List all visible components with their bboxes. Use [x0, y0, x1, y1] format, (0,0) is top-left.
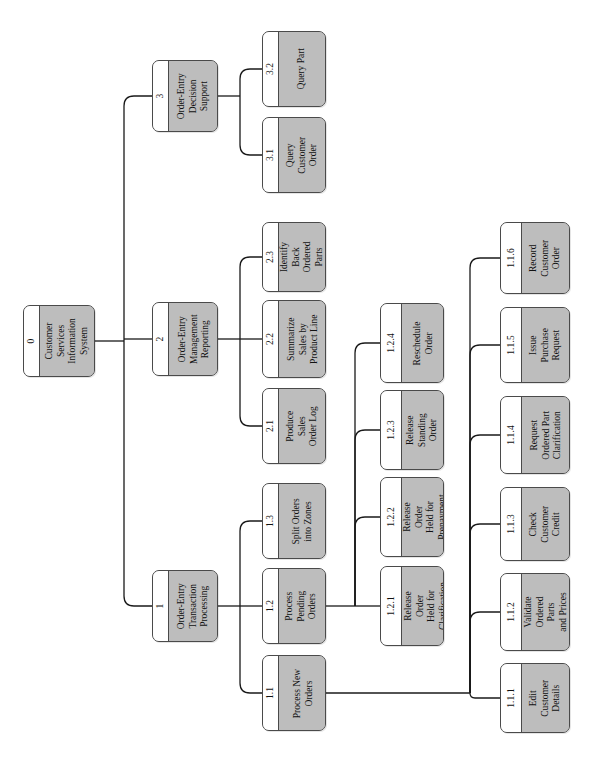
process-node-1-2-2[interactable]: 1.2.2 ReleaseOrderHeld forPrepayment: [380, 477, 444, 557]
edge-3-to-3.1: [240, 96, 262, 155]
node-id: 1.2.3: [386, 420, 396, 440]
node-id: 1.2.1: [386, 596, 396, 616]
node-name-box: ReleaseStandingOrder: [402, 391, 444, 469]
node-name-box: CustomerServicesInformationSystem: [40, 306, 94, 376]
node-label: Order-EntryTransactionProcessing: [176, 583, 211, 629]
node-id: 1.3: [266, 515, 276, 527]
node-label: RecordCustomerOrder: [528, 240, 563, 277]
node-name-box: ProcessPendingOrders: [279, 569, 325, 643]
edge-1.2-to-1.2.4: [355, 343, 380, 606]
node-id: 1.2.4: [386, 333, 396, 353]
node-id-strip: 1.1.2: [501, 574, 522, 650]
node-label: ProduceSalesOrder Log: [285, 406, 320, 446]
node-id-strip: 1.2.4: [381, 304, 402, 382]
node-id: 2: [155, 337, 165, 342]
node-id-strip: 2: [153, 303, 169, 375]
node-id-strip: 1.1.6: [501, 223, 522, 293]
node-id: 1.2: [266, 600, 276, 612]
node-id-strip: 1: [153, 571, 169, 641]
edge-1.1-to-1.1.6: [470, 258, 500, 693]
node-id: 3.2: [266, 63, 276, 75]
process-node-3[interactable]: 3 Order-EntryDecisionSupport: [152, 60, 218, 132]
node-label: Process NewOrders: [292, 668, 315, 717]
edge-1.1-to-1.1.5: [470, 345, 500, 693]
node-name-box: Order-EntryDecisionSupport: [169, 61, 217, 131]
node-name-box: Order-EntryManagementReporting: [169, 303, 218, 375]
process-node-1-2-1[interactable]: 1.2.1 ReleaseOrderHeld forClarification: [380, 566, 444, 646]
process-node-2-2[interactable]: 2.2 SummarizeSales byProduct Line: [262, 300, 326, 378]
edge-1-to-1.1: [240, 606, 262, 693]
node-name-box: IdentifyBackOrderedParts: [279, 223, 325, 291]
node-id: 2.3: [266, 251, 276, 263]
edge-1.2-to-1.2.3: [355, 430, 380, 606]
node-label: Query Part: [296, 48, 308, 89]
node-id-strip: 2.1: [263, 389, 279, 463]
node-label: CheckCustomerCredit: [528, 506, 563, 543]
node-label: IssuePurchaseRequest: [528, 328, 563, 362]
node-id: 3: [155, 94, 165, 99]
node-id-strip: 1.3: [263, 484, 279, 558]
edge-1.1-to-1.1.3: [470, 524, 500, 693]
process-node-2-1[interactable]: 2.1 ProduceSalesOrder Log: [262, 388, 326, 464]
node-id: 1: [155, 604, 165, 609]
node-id-strip: 1.1.1: [501, 664, 522, 732]
edge-2-to-2.3: [240, 257, 262, 339]
node-id-strip: 1.2.3: [381, 391, 402, 469]
node-name-box: ReleaseOrderHeld forClarification: [402, 567, 445, 645]
node-label: RescheduleOrder: [412, 321, 435, 365]
node-id-strip: 2.2: [263, 301, 279, 377]
node-id: 1.1.1: [506, 688, 516, 708]
process-node-1-1-1[interactable]: 1.1.1 EditCustomerDetails: [500, 663, 570, 733]
node-name-box: Query Part: [279, 32, 325, 106]
node-id: 1.1: [266, 687, 276, 699]
node-id-strip: 1.2: [263, 569, 279, 643]
process-node-1-1-4[interactable]: 1.1.4 RequestOrdered PartClarification: [500, 396, 570, 474]
node-id-strip: 3.1: [263, 118, 279, 192]
process-node-3-2[interactable]: 3.2 Query Part: [262, 31, 326, 107]
edge-0-to-1: [124, 341, 152, 606]
node-id: 2.2: [266, 333, 276, 345]
node-name-box: ValidateOrderedPartsand Prices: [522, 574, 570, 650]
node-name-box: Order-EntryTransactionProcessing: [169, 571, 217, 641]
edge-0-to-3: [124, 96, 152, 341]
process-node-0[interactable]: 0 CustomerServicesInformationSystem: [23, 305, 95, 377]
process-node-1[interactable]: 1 Order-EntryTransactionProcessing: [152, 570, 218, 642]
edge-1.1-to-1.1.4: [470, 435, 500, 693]
process-node-1-1-6[interactable]: 1.1.6 RecordCustomerOrder: [500, 222, 570, 294]
process-node-1-1-5[interactable]: 1.1.5 IssuePurchaseRequest: [500, 307, 570, 383]
node-name-box: IssuePurchaseRequest: [522, 308, 570, 382]
process-node-3-1[interactable]: 3.1 QueryCustomerOrder: [262, 117, 326, 193]
node-id-strip: 1.1.5: [501, 308, 522, 382]
process-node-1-2-3[interactable]: 1.2.3 ReleaseStandingOrder: [380, 390, 444, 470]
node-label: Split Ordersinto Zones: [291, 498, 314, 544]
node-id: 1.1.4: [506, 425, 516, 445]
process-node-1-2-4[interactable]: 1.2.4 RescheduleOrder: [380, 303, 444, 383]
edge-2-to-2.1: [240, 339, 262, 426]
process-node-1-3[interactable]: 1.3 Split Ordersinto Zones: [262, 483, 326, 559]
process-node-1-2[interactable]: 1.2 ProcessPendingOrders: [262, 568, 326, 644]
node-name-box: Split Ordersinto Zones: [279, 484, 325, 558]
node-name-box: ReleaseOrderHeld forPrepayment: [402, 478, 445, 556]
process-node-1-1-3[interactable]: 1.1.3 CheckCustomerCredit: [500, 487, 570, 561]
process-node-1-1-2[interactable]: 1.1.2 ValidateOrderedPartsand Prices: [500, 573, 570, 651]
process-node-2-3[interactable]: 2.3 IdentifyBackOrderedParts: [262, 222, 326, 292]
node-label: RequestOrdered PartClarification: [529, 411, 564, 460]
node-id-strip: 1.2.1: [381, 567, 402, 645]
node-name-box: CheckCustomerCredit: [522, 488, 570, 560]
node-name-box: ProduceSalesOrder Log: [279, 389, 325, 463]
node-id: 1.1.6: [506, 248, 516, 268]
node-label: ProcessPendingOrders: [285, 590, 320, 621]
node-name-box: EditCustomerDetails: [522, 664, 570, 732]
node-name-box: SummarizeSales byProduct Line: [279, 301, 326, 377]
node-label: ReleaseStandingOrder: [405, 413, 440, 447]
node-id: 2.1: [266, 420, 276, 432]
process-node-2[interactable]: 2 Order-EntryManagementReporting: [152, 302, 218, 376]
node-name-box: RequestOrdered PartClarification: [522, 397, 571, 473]
node-label: ValidateOrderedPartsand Prices: [522, 592, 568, 631]
node-label: QueryCustomerOrder: [285, 137, 320, 174]
node-label: ReleaseOrderHeld forPrepayment: [401, 494, 444, 539]
node-label: Order-EntryDecisionSupport: [176, 73, 211, 119]
edge-1.1-to-1.1.1: [470, 693, 500, 698]
edge-1.1-to-1.1.2: [470, 612, 500, 693]
process-node-1-1[interactable]: 1.1 Process NewOrders: [262, 655, 326, 731]
